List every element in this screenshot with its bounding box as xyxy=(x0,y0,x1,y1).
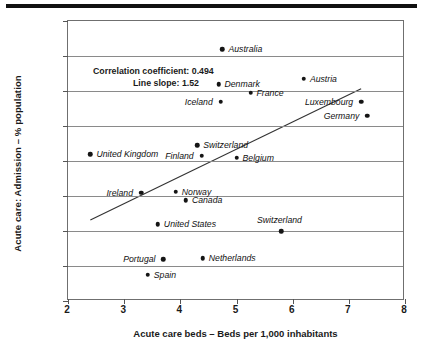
grid-line xyxy=(68,91,403,92)
grid-line xyxy=(68,266,403,267)
data-point xyxy=(234,155,239,160)
correlation-annotation: Correlation coefficient: 0.494 xyxy=(93,66,214,76)
data-point-label: Netherlands xyxy=(209,253,256,263)
data-point xyxy=(88,152,93,157)
data-point xyxy=(279,229,284,234)
y-tick-mark xyxy=(63,56,68,57)
correlation-label: Correlation coefficient: xyxy=(93,66,189,76)
grid-line xyxy=(68,56,403,57)
x-tick-label: 7 xyxy=(333,304,363,315)
slope-annotation: Line slope: 1.52 xyxy=(133,78,199,88)
grid-line xyxy=(68,231,403,232)
data-point-label: France xyxy=(257,88,284,98)
x-tick-label: 5 xyxy=(221,304,251,315)
y-tick-mark xyxy=(63,21,68,22)
x-tick-label: 6 xyxy=(277,304,307,315)
data-point-label: Ireland xyxy=(106,188,133,198)
x-tick-label: 4 xyxy=(164,304,194,315)
grid-line xyxy=(68,161,403,162)
data-point-label: Belgium xyxy=(243,153,274,163)
data-point-label: Iceland xyxy=(185,97,213,107)
correlation-value: 0.494 xyxy=(192,66,214,76)
x-tick-label: 2 xyxy=(52,304,82,315)
x-axis-title: Acute care beds – Beds per 1,000 inhabit… xyxy=(67,328,404,339)
data-point-label: Switzerland xyxy=(203,140,248,150)
data-point-label: Denmark xyxy=(225,79,260,89)
data-point-label: Switzerland xyxy=(257,215,302,225)
data-point-label: Portugal xyxy=(123,254,155,264)
x-tick-label: 3 xyxy=(108,304,138,315)
data-point xyxy=(146,273,151,278)
data-point xyxy=(161,257,166,262)
y-tick-mark xyxy=(63,231,68,232)
data-point-label: Germany xyxy=(324,111,360,121)
y-tick-mark xyxy=(63,126,68,127)
data-point-label: Spain xyxy=(154,270,176,280)
y-tick-mark xyxy=(63,266,68,267)
data-point-label: Luxembourg xyxy=(305,97,353,107)
y-tick-mark xyxy=(63,161,68,162)
y-tick-mark xyxy=(63,196,68,197)
data-point-label: Canada xyxy=(192,195,222,205)
slope-value: 1.52 xyxy=(182,78,199,88)
data-point xyxy=(216,82,221,87)
data-point-label: Finland xyxy=(165,151,194,161)
data-point xyxy=(248,91,253,96)
y-tick-mark xyxy=(63,91,68,92)
data-point xyxy=(195,143,200,148)
data-point-label: Austria xyxy=(310,74,337,84)
data-point xyxy=(365,113,370,118)
data-point-label: Australia xyxy=(228,44,262,54)
data-point xyxy=(174,189,179,194)
data-point xyxy=(359,99,364,104)
top-rule xyxy=(6,4,417,8)
data-point xyxy=(184,198,189,203)
plot-area: AustraliaDenmarkAustriaFranceIcelandLuxe… xyxy=(67,20,404,300)
data-point xyxy=(139,190,144,195)
data-point xyxy=(219,99,224,104)
x-tick-label: 8 xyxy=(389,304,419,315)
data-point xyxy=(156,222,161,227)
data-point xyxy=(201,256,206,261)
grid-line xyxy=(68,126,403,127)
data-point-label: United States xyxy=(164,219,216,229)
data-point xyxy=(220,47,225,52)
data-point-label: United Kingdom xyxy=(96,149,158,159)
y-axis-title: Acute care: Admission – % population xyxy=(12,29,23,299)
slope-label: Line slope: xyxy=(133,78,179,88)
chart-figure: Acute care: Admission – % population Acu… xyxy=(0,0,423,348)
data-point xyxy=(199,154,204,159)
data-point xyxy=(302,77,307,82)
